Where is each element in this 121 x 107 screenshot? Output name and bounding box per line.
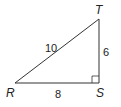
right-angle-marker bbox=[92, 76, 99, 83]
side-st-label: 6 bbox=[103, 46, 109, 58]
triangle-diagram: T R S 10 6 8 bbox=[0, 0, 121, 107]
vertex-r-label: R bbox=[6, 86, 15, 100]
side-rt-label: 10 bbox=[45, 42, 57, 54]
vertex-t-label: T bbox=[95, 3, 104, 17]
vertex-s-label: S bbox=[96, 86, 104, 100]
side-rs-label: 8 bbox=[55, 88, 61, 100]
